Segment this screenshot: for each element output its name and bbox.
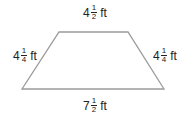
top-whole: 4 [83,7,90,19]
trapezoid-outline [22,32,164,89]
left-fraction: 1 4 [21,47,27,64]
right-fraction: 1 4 [161,47,167,64]
left-side-label: 4 1 4 ft [13,47,37,64]
bottom-side-label: 7 1 2 ft [83,97,107,114]
right-side-label: 4 1 4 ft [153,47,177,64]
top-fraction: 1 2 [91,4,97,21]
top-side-label: 4 1 2 ft [83,4,107,21]
bottom-fraction: 1 2 [91,97,97,114]
